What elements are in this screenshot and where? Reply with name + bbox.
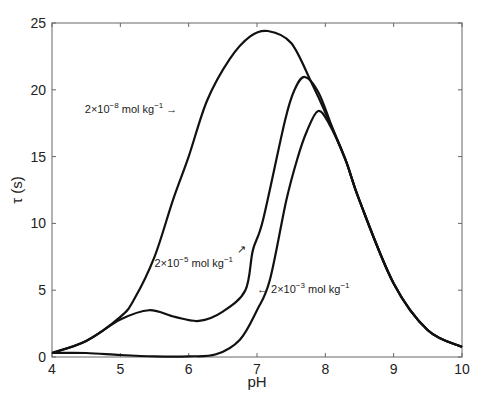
chart: 456789100510152025 2×10−8 mol kg−1 →2×10… bbox=[0, 0, 486, 412]
annotation-3: ← 2×10−3 mol kg−1 bbox=[257, 281, 350, 295]
y-tick-label: 10 bbox=[30, 215, 46, 231]
plot-frame bbox=[52, 23, 462, 357]
x-tick-label: 6 bbox=[185, 361, 193, 377]
y-tick-label: 15 bbox=[30, 149, 46, 165]
series-line-1 bbox=[52, 31, 462, 353]
y-tick-label: 20 bbox=[30, 82, 46, 98]
y-tick-label: 5 bbox=[38, 282, 46, 298]
y-tick-label: 25 bbox=[30, 15, 46, 31]
series-group bbox=[52, 31, 462, 357]
y-axis-label: τ (s) bbox=[8, 176, 25, 204]
y-tick-label: 0 bbox=[38, 349, 46, 365]
annotation-arrow: ↗ bbox=[237, 243, 246, 255]
x-tick-label: 4 bbox=[48, 361, 56, 377]
annotation-1: 2×10−8 mol kg−1 → bbox=[85, 101, 178, 115]
x-axis-label: pH bbox=[247, 373, 266, 390]
x-tick-label: 5 bbox=[116, 361, 124, 377]
annotations: 2×10−8 mol kg−1 →2×10−5 mol kg−1↗← 2×10−… bbox=[85, 101, 350, 295]
x-tick-label: 10 bbox=[454, 361, 470, 377]
series-line-3 bbox=[52, 111, 462, 357]
x-tick-label: 8 bbox=[321, 361, 329, 377]
x-tick-label: 9 bbox=[390, 361, 398, 377]
annotation-2: 2×10−5 mol kg−1 bbox=[155, 255, 234, 269]
